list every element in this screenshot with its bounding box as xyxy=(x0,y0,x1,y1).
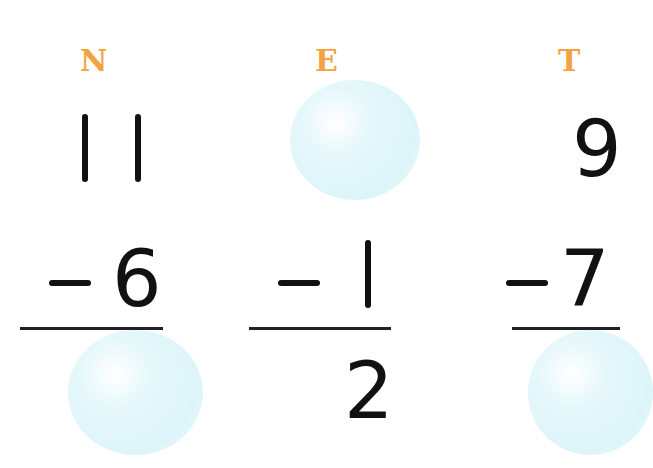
bubble-decoration-top xyxy=(290,80,420,200)
minus-sign xyxy=(278,280,320,286)
answer-line xyxy=(20,327,163,330)
problem-subtrahend xyxy=(365,240,371,308)
problem-subtrahend: 6 xyxy=(112,240,162,318)
bubble-decoration-bottom-left xyxy=(68,330,203,455)
answer-line xyxy=(512,327,620,330)
answer-line xyxy=(249,327,391,330)
answer-value[interactable]: 2 xyxy=(344,352,394,430)
problem-letter: T xyxy=(558,46,580,76)
problem-subtrahend: 7 xyxy=(560,240,610,318)
minus-sign xyxy=(506,280,548,286)
problem-minuend: 9 xyxy=(572,110,622,188)
problem-letter: N xyxy=(80,46,107,76)
minus-sign xyxy=(49,280,91,286)
bubble-decoration-bottom-right xyxy=(528,330,653,455)
problem-letter: E xyxy=(315,46,338,76)
digit-one-stroke xyxy=(82,114,88,182)
digit-one-stroke xyxy=(135,114,141,182)
